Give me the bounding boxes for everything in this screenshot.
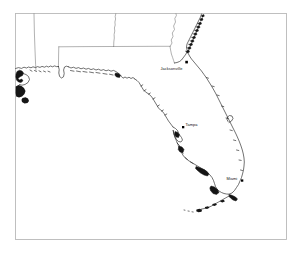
jacksonville-label: Jacksonville [161, 66, 183, 71]
map-frame [16, 14, 287, 240]
tampa-label: Tampa [186, 122, 199, 127]
jacksonville-dot-icon [185, 61, 188, 64]
miami-dot-icon [241, 179, 243, 181]
map-figure: Jacksonville Tampa Miami [0, 0, 301, 254]
map-canvas: Jacksonville Tampa Miami [0, 0, 301, 254]
miami-label: Miami [227, 176, 238, 181]
tampa-dot-icon [182, 126, 184, 128]
